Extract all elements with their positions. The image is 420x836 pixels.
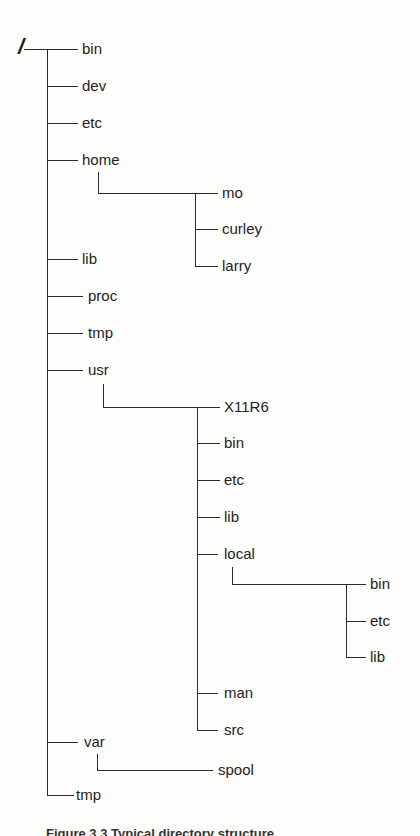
horizontal-connector-line bbox=[98, 193, 218, 194]
directory-node-usr-local-bin: bin bbox=[370, 576, 390, 591]
horizontal-connector-line bbox=[195, 229, 218, 230]
directory-node-usr-src: src bbox=[224, 722, 244, 737]
horizontal-connector-line bbox=[47, 296, 83, 297]
directory-node-var: var bbox=[84, 734, 105, 749]
vertical-connector-line bbox=[232, 567, 233, 584]
directory-node-usr-etc: etc bbox=[224, 472, 244, 487]
directory-node-tmp: tmp bbox=[88, 325, 113, 340]
directory-node-home: home bbox=[82, 152, 120, 167]
horizontal-connector-line bbox=[47, 86, 78, 87]
directory-node-usr-local: local bbox=[224, 546, 255, 561]
horizontal-connector-line bbox=[47, 795, 74, 796]
directory-node-dev: dev bbox=[82, 78, 106, 93]
vertical-connector-line bbox=[103, 384, 104, 407]
directory-node-usr-man: man bbox=[224, 685, 253, 700]
horizontal-connector-line bbox=[97, 770, 213, 771]
horizontal-connector-line bbox=[47, 160, 78, 161]
vertical-connector-line bbox=[97, 754, 98, 770]
horizontal-connector-line bbox=[197, 517, 220, 518]
directory-tree-diagram: / bindevetchomemocurleylarrylibproctmpus… bbox=[0, 0, 420, 836]
horizontal-connector-line bbox=[197, 443, 220, 444]
horizontal-connector-line bbox=[197, 693, 218, 694]
horizontal-connector-line bbox=[47, 259, 78, 260]
horizontal-connector-line bbox=[197, 554, 218, 555]
directory-node-home-mo: mo bbox=[222, 185, 243, 200]
directory-node-home-curley: curley bbox=[222, 221, 262, 236]
horizontal-connector-line bbox=[47, 333, 83, 334]
directory-node-usr-lib: lib bbox=[224, 509, 239, 524]
horizontal-connector-line bbox=[47, 742, 78, 743]
root-directory-label: / bbox=[18, 36, 24, 58]
directory-node-usr-local-etc: etc bbox=[370, 613, 390, 628]
directory-node-etc: etc bbox=[82, 115, 102, 130]
horizontal-connector-line bbox=[197, 730, 218, 731]
vertical-connector-line bbox=[197, 407, 198, 730]
horizontal-connector-line bbox=[197, 480, 220, 481]
directory-node-usr-bin: bin bbox=[224, 435, 244, 450]
horizontal-connector-line bbox=[47, 370, 83, 371]
vertical-connector-line bbox=[98, 172, 99, 193]
directory-node-usr-x11r6: X11R6 bbox=[224, 399, 269, 414]
directory-node-var-spool: spool bbox=[218, 762, 254, 777]
horizontal-connector-line bbox=[103, 407, 220, 408]
horizontal-connector-line bbox=[346, 621, 366, 622]
horizontal-connector-line bbox=[47, 123, 78, 124]
directory-node-home-larry: larry bbox=[222, 258, 251, 273]
directory-node-usr-local-lib: lib bbox=[370, 649, 385, 664]
horizontal-connector-line bbox=[24, 49, 78, 50]
directory-node-tmp2: tmp bbox=[76, 787, 101, 802]
directory-node-proc: proc bbox=[88, 288, 117, 303]
figure-caption: Figure 3.3 Typical directory structure bbox=[46, 826, 274, 836]
directory-node-bin: bin bbox=[82, 41, 102, 56]
horizontal-connector-line bbox=[195, 266, 218, 267]
directory-node-usr: usr bbox=[88, 362, 109, 377]
horizontal-connector-line bbox=[346, 657, 366, 658]
directory-node-lib: lib bbox=[82, 251, 97, 266]
